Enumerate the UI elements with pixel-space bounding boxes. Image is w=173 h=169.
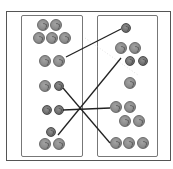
match-line-L3-R5 [63, 88, 110, 143]
match-line-L4-R4 [63, 108, 110, 110]
connection-lines [0, 0, 173, 169]
match-line-L5-R2 [58, 58, 121, 135]
match-line-L2-R1 [66, 29, 121, 57]
